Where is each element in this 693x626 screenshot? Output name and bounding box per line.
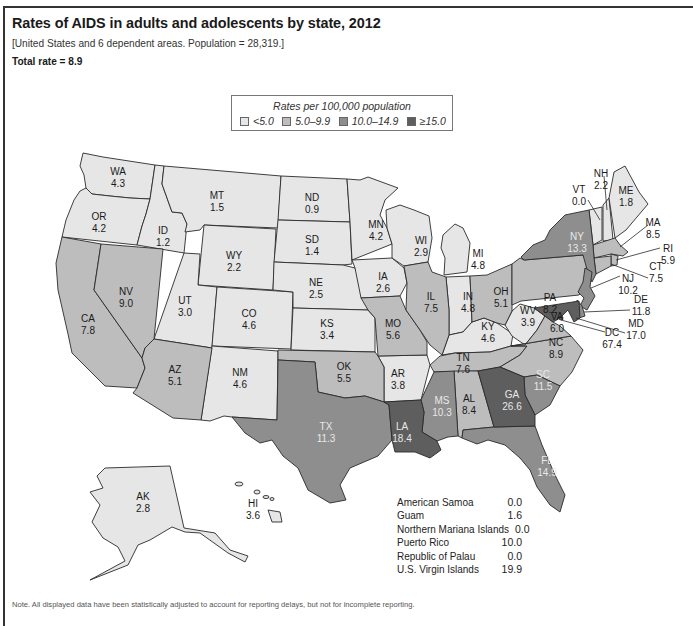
label-WA: WA	[110, 166, 126, 177]
svg-text:18.4: 18.4	[392, 433, 412, 444]
svg-text:1.5: 1.5	[210, 202, 224, 213]
svg-text:4.6: 4.6	[233, 379, 247, 390]
state-CT	[594, 256, 611, 274]
svg-text:7.8: 7.8	[81, 325, 95, 336]
label-KS: KS	[320, 318, 334, 329]
legend-title: Rates per 100,000 population	[232, 100, 452, 112]
svg-text:11.3: 11.3	[317, 433, 336, 444]
label-NE: NE	[309, 277, 323, 288]
label-NJ: NJ	[622, 273, 634, 284]
svg-text:1.2: 1.2	[156, 237, 170, 248]
label-AZ: AZ	[169, 364, 182, 375]
label-WV: WV	[520, 305, 536, 316]
svg-text:4.3: 4.3	[111, 178, 125, 189]
label-AL: AL	[463, 393, 476, 404]
svg-text:10.3: 10.3	[432, 407, 452, 418]
legend-item-tier-1: <5.0	[240, 115, 274, 127]
state-MS	[421, 371, 458, 441]
label-WY: WY	[226, 250, 242, 261]
label-ND: ND	[305, 192, 319, 203]
label-KY: KY	[481, 321, 495, 332]
legend-item-tier-2: 5.0–9.9	[282, 115, 330, 127]
territory-row: American Samoa0.0	[397, 496, 522, 509]
label-PA: PA	[544, 292, 557, 303]
svg-text:0.0: 0.0	[572, 196, 586, 207]
label-GA: GA	[505, 389, 520, 400]
svg-text:8.9: 8.9	[549, 349, 563, 360]
svg-text:3.6: 3.6	[246, 510, 260, 521]
label-NC: NC	[549, 337, 563, 348]
svg-text:4.6: 4.6	[242, 320, 256, 331]
svg-text:11.5: 11.5	[534, 381, 553, 392]
label-MO: MO	[385, 318, 401, 329]
svg-text:5.9: 5.9	[661, 255, 675, 266]
legend-swatch	[407, 117, 416, 126]
label-WI: WI	[415, 235, 427, 246]
svg-text:67.4: 67.4	[602, 339, 622, 350]
territory-row: Puerto Rico10.0	[397, 536, 522, 549]
label-RI: RI	[663, 243, 673, 254]
label-ME: ME	[619, 185, 634, 196]
svg-text:6.0: 6.0	[550, 323, 564, 334]
label-MA: MA	[646, 217, 661, 228]
label-NY: NY	[570, 231, 584, 242]
label-UT: UT	[178, 295, 191, 306]
svg-text:1.8: 1.8	[619, 197, 633, 208]
label-DC: DC	[605, 327, 619, 338]
label-MT: MT	[210, 190, 224, 201]
svg-text:1.4: 1.4	[305, 246, 319, 257]
svg-text:2.6: 2.6	[376, 283, 390, 294]
label-NV: NV	[119, 286, 133, 297]
label-SC: SC	[536, 369, 550, 380]
label-SD: SD	[305, 234, 319, 245]
territory-row: Guam1.6	[397, 509, 522, 522]
svg-text:4.2: 4.2	[369, 231, 383, 242]
legend-item-tier-3: 10.0–14.9	[339, 115, 399, 127]
state-AK	[90, 466, 248, 580]
label-OK: OK	[337, 361, 352, 372]
svg-text:5.6: 5.6	[386, 330, 400, 341]
label-MD: MD	[628, 318, 644, 329]
svg-text:7.5: 7.5	[649, 273, 663, 284]
territory-row: U.S. Virgin Islands19.9	[397, 563, 522, 576]
svg-text:5.1: 5.1	[494, 298, 508, 309]
svg-text:2.5: 2.5	[309, 289, 323, 300]
svg-text:3.9: 3.9	[521, 317, 535, 328]
svg-text:26.6: 26.6	[502, 401, 522, 412]
label-TX: TX	[320, 421, 333, 432]
svg-text:8.2: 8.2	[543, 304, 557, 315]
label-IA: IA	[378, 271, 388, 282]
label-IL: IL	[427, 291, 436, 302]
label-MN: MN	[368, 219, 384, 230]
territory-row: Republic of Palau0.0	[397, 550, 522, 563]
label-CO: CO	[242, 308, 257, 319]
svg-text:8.5: 8.5	[646, 229, 660, 240]
svg-text:5.1: 5.1	[168, 376, 182, 387]
legend-swatch	[282, 117, 291, 126]
svg-text:17.0: 17.0	[626, 330, 646, 341]
svg-text:13.3: 13.3	[567, 243, 587, 254]
svg-text:0.9: 0.9	[305, 204, 319, 215]
svg-text:2.2: 2.2	[227, 262, 241, 273]
svg-text:7.5: 7.5	[424, 303, 438, 314]
label-OR: OR	[92, 211, 107, 222]
label-FL: FL	[541, 455, 553, 466]
legend-swatch	[240, 117, 249, 126]
label-AK: AK	[136, 491, 150, 502]
label-HI: HI	[248, 498, 258, 509]
legend-item-tier-4: ≥15.0	[407, 115, 446, 127]
label-IN: IN	[463, 291, 473, 302]
label-VT: VT	[573, 184, 586, 195]
svg-text:2.8: 2.8	[136, 503, 150, 514]
label-CA: CA	[81, 313, 95, 324]
state-MI	[441, 224, 470, 275]
svg-text:3.4: 3.4	[320, 330, 334, 341]
legend-swatch	[339, 117, 348, 126]
svg-text:8.4: 8.4	[462, 405, 476, 416]
svg-text:14.9: 14.9	[537, 467, 557, 478]
svg-text:9.0: 9.0	[119, 298, 133, 309]
svg-text:4.8: 4.8	[471, 260, 485, 271]
label-LA: LA	[396, 421, 409, 432]
label-CT: CT	[649, 261, 662, 272]
